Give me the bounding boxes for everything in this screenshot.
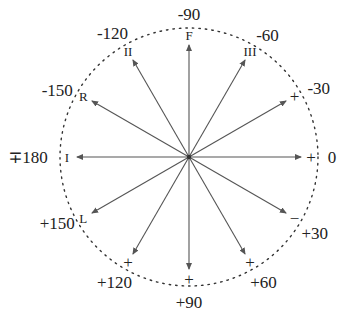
- spoke-arrow: [189, 101, 286, 157]
- angle-label: +120: [97, 273, 132, 292]
- polarity-sign: −: [290, 209, 300, 228]
- spoke-arrow: [92, 157, 189, 213]
- angle-labels-group: 0+30+60+90+120+150∓180-150-120-90-60-30: [8, 5, 336, 312]
- angle-label: ∓180: [8, 148, 48, 167]
- spoke-arrow: [189, 157, 286, 213]
- lead-label: III: [244, 44, 257, 59]
- polarity-sign: +: [123, 253, 133, 272]
- polarity-sign: +: [184, 270, 194, 289]
- angle-label: -30: [307, 79, 330, 98]
- spoke-arrow: [189, 60, 245, 157]
- angle-label: 0: [328, 148, 337, 167]
- polarity-sign: +: [290, 87, 300, 106]
- spoke-arrow: [189, 157, 245, 254]
- lead-label: F: [185, 28, 192, 43]
- lead-label: R: [79, 89, 88, 104]
- polarity-sign: +: [245, 253, 255, 272]
- lead-label: II: [124, 44, 133, 59]
- center-point: [187, 155, 191, 159]
- spoke-arrow: [92, 101, 189, 157]
- angle-label: -150: [42, 81, 73, 100]
- angle-label: +90: [176, 293, 203, 312]
- angle-label: +60: [250, 273, 277, 292]
- angle-label: -120: [97, 24, 128, 43]
- angle-label: -60: [256, 26, 279, 45]
- spoke-arrow: [133, 60, 189, 157]
- angle-label: +150: [40, 214, 75, 233]
- hexaxial-diagram: +−+++LIRIIFIII+ 0+30+60+90+120+150∓180-1…: [0, 0, 346, 317]
- lead-label: L: [79, 211, 87, 226]
- lead-label: I: [65, 150, 69, 165]
- spoke-arrow: [133, 157, 189, 254]
- angle-label: -90: [178, 5, 201, 24]
- polarity-sign: +: [306, 148, 316, 167]
- angle-label: +30: [301, 224, 328, 243]
